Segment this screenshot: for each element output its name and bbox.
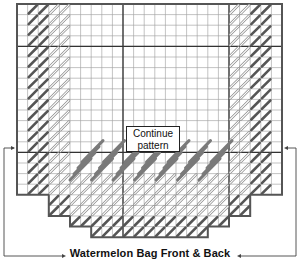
light-stitch-core	[241, 154, 249, 162]
light-stitch-core	[241, 37, 249, 45]
dark-stitch	[39, 101, 47, 109]
dark-stitch	[29, 37, 37, 45]
light-stitch-core	[230, 164, 238, 172]
dark-stitch	[29, 48, 37, 56]
light-stitch-core	[114, 185, 122, 193]
dark-stitch	[251, 37, 259, 45]
dark-stitch	[220, 217, 228, 225]
dark-stitch	[167, 228, 175, 236]
dark-stitch	[262, 164, 270, 172]
dark-stitch	[241, 207, 249, 215]
light-stitch-core	[241, 48, 249, 56]
dark-stitch	[251, 101, 259, 109]
dark-stitch	[262, 154, 270, 162]
dark-stitch	[251, 132, 259, 140]
dark-stitch	[262, 26, 270, 34]
dark-stitch	[103, 228, 111, 236]
light-stitch-core	[156, 196, 164, 204]
light-stitch-core	[50, 175, 58, 183]
dark-stitch	[71, 217, 79, 225]
dark-stitch	[241, 196, 249, 204]
light-stitch-core	[241, 175, 249, 183]
dark-stitch	[251, 48, 259, 56]
dark-stitch	[50, 207, 58, 215]
light-stitch-core	[50, 79, 58, 87]
dark-stitch	[251, 154, 259, 162]
dark-stitch	[29, 79, 37, 87]
dark-stitch	[135, 228, 143, 236]
dark-stitch	[39, 132, 47, 140]
dark-stitch	[262, 79, 270, 87]
light-stitch-core	[50, 111, 58, 119]
dark-stitch	[29, 164, 37, 172]
dark-stitch	[29, 101, 37, 109]
light-stitch-core	[50, 101, 58, 109]
dark-stitch	[251, 79, 259, 87]
light-stitch-core	[103, 196, 111, 204]
dark-stitch	[29, 122, 37, 130]
dark-stitch	[39, 79, 47, 87]
light-stitch-core	[61, 58, 69, 66]
dark-stitch	[167, 217, 175, 225]
light-stitch-core	[50, 37, 58, 45]
dark-stitch	[61, 207, 69, 215]
light-stitch-core	[241, 143, 249, 151]
light-stitch-core	[241, 5, 249, 13]
dark-stitch	[230, 207, 238, 215]
light-stitch-core	[135, 207, 143, 215]
light-stitch-core	[61, 164, 69, 172]
dark-stitch	[39, 69, 47, 77]
light-stitch-core	[61, 122, 69, 130]
diagram-title: Watermelon Bag Front & Back	[0, 247, 300, 259]
light-stitch-core	[230, 16, 238, 24]
light-stitch-core	[241, 79, 249, 87]
dark-stitch	[39, 5, 47, 13]
dark-stitch	[39, 26, 47, 34]
dark-stitch	[262, 37, 270, 45]
light-stitch-core	[188, 207, 196, 215]
dark-stitch	[29, 16, 37, 24]
dark-stitch	[262, 16, 270, 24]
dark-stitch	[145, 217, 153, 225]
light-stitch-core	[209, 196, 217, 204]
light-stitch-core	[177, 185, 185, 193]
light-stitch-core	[61, 26, 69, 34]
light-stitch-core	[114, 196, 122, 204]
dark-stitch	[198, 228, 206, 236]
dark-stitch	[135, 217, 143, 225]
dark-stitch	[124, 228, 132, 236]
light-stitch-core	[71, 196, 79, 204]
dark-stitch	[39, 185, 47, 193]
dark-stitch	[145, 228, 153, 236]
dark-stitch	[82, 217, 90, 225]
dark-stitch	[251, 185, 259, 193]
light-stitch-core	[61, 111, 69, 119]
light-stitch-core	[230, 37, 238, 45]
light-stitch-core	[241, 26, 249, 34]
light-stitch-core	[50, 132, 58, 140]
light-stitch-core	[241, 122, 249, 130]
dark-stitch	[251, 90, 259, 98]
dark-stitch	[92, 217, 100, 225]
light-stitch-core	[50, 26, 58, 34]
arrow-head-icon	[11, 146, 15, 150]
light-stitch-core	[209, 175, 217, 183]
light-stitch-core	[167, 175, 175, 183]
light-stitch-core	[230, 143, 238, 151]
long-stitch	[190, 141, 211, 162]
dark-stitch	[251, 58, 259, 66]
dark-stitch	[262, 90, 270, 98]
light-stitch-core	[61, 79, 69, 87]
dark-stitch	[251, 175, 259, 183]
light-stitch-core	[241, 69, 249, 77]
light-stitch-core	[50, 5, 58, 13]
dark-stitch	[156, 228, 164, 236]
light-stitch-core	[220, 196, 228, 204]
dark-stitch	[29, 111, 37, 119]
light-stitch-core	[82, 196, 90, 204]
continue-pattern-note: Continue pattern	[126, 126, 180, 152]
light-stitch-core	[209, 185, 217, 193]
dark-stitch	[251, 69, 259, 77]
dark-stitch	[29, 90, 37, 98]
dark-stitch	[39, 175, 47, 183]
